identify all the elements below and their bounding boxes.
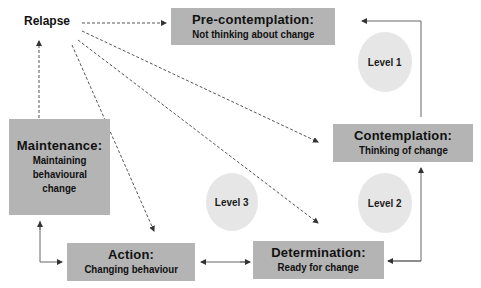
- stage-contemplation: Contemplation: Thinking of change: [333, 124, 473, 162]
- arrow-relapse-to-determination: [78, 40, 318, 223]
- stage-action: Action: Changing behaviour: [67, 243, 195, 281]
- arrow-relapse-to-contemplation: [82, 31, 318, 142]
- level-label: Level 2: [368, 197, 402, 209]
- stage-subtitle: Not thinking about change: [192, 27, 314, 41]
- stage-title: Determination:: [271, 246, 366, 260]
- level-1-circle: Level 1: [358, 32, 412, 92]
- stage-subtitle: Thinking of change: [359, 143, 448, 157]
- stage-title: Maintenance:: [17, 139, 102, 153]
- stage-subtitle-line: behavioural: [32, 167, 86, 181]
- stage-subtitle: Changing behaviour: [84, 262, 178, 276]
- stage-title: Pre-contemplation:: [192, 13, 314, 27]
- stage-subtitle-line: change: [43, 181, 77, 195]
- stage-title: Contemplation:: [354, 129, 452, 143]
- stage-subtitle: Ready for change: [278, 260, 359, 274]
- stage-determination: Determination: Ready for change: [253, 241, 384, 279]
- stage-subtitle-line: Maintaining: [33, 153, 87, 167]
- stage-precontemplation: Pre-contemplation: Not thinking about ch…: [171, 8, 335, 45]
- level-2-circle: Level 2: [358, 173, 412, 233]
- arrow-maintenance-to-action: [40, 221, 62, 262]
- level-label: Level 3: [215, 196, 249, 208]
- level-3-circle: Level 3: [206, 173, 258, 231]
- stage-title: Action:: [108, 248, 154, 262]
- relapse-label: Relapse: [24, 14, 70, 28]
- stage-maintenance: Maintenance: Maintaining behavioural cha…: [9, 119, 110, 215]
- level-label: Level 1: [368, 56, 402, 68]
